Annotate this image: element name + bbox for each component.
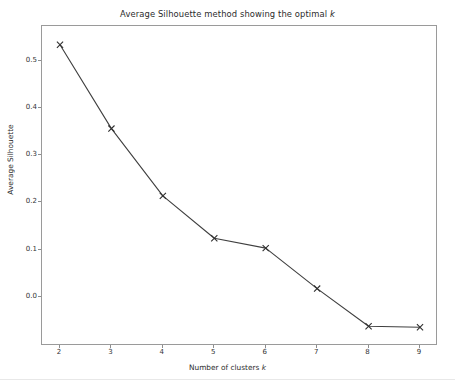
x-axis-tick-labels: 23456789 [0, 348, 455, 362]
x-axis-label: Number of clusters k [0, 363, 455, 372]
x-axis-tick-label: 6 [262, 348, 266, 356]
x-axis-tick-label: 7 [314, 348, 318, 356]
x-axis-tick-label: 9 [417, 348, 421, 356]
x-axis-tick-label: 3 [108, 348, 112, 356]
x-axis-label-text: Number of clusters [189, 363, 262, 372]
data-point-markers [57, 42, 423, 331]
plot-area [41, 25, 437, 345]
y-axis-tick-label: 0.2 [26, 197, 37, 205]
data-series-line [60, 45, 420, 327]
data-point-marker [160, 193, 166, 199]
x-axis-tick-label: 2 [57, 348, 61, 356]
x-axis-tick-label: 8 [365, 348, 369, 356]
chart-title-italic-k: k [330, 9, 335, 19]
chart-title-text: Average Silhouette method showing the op… [120, 9, 330, 19]
x-axis-tick-label: 4 [160, 348, 164, 356]
chart-title: Average Silhouette method showing the op… [0, 9, 455, 19]
y-axis-tick-label: 0.4 [26, 103, 37, 111]
x-axis-label-italic-k: k [262, 363, 266, 372]
y-axis-tick-label: 0.1 [26, 245, 37, 253]
x-axis-tick-label: 5 [211, 348, 215, 356]
y-axis-label: Average Silhouette [6, 80, 15, 240]
data-point-marker [57, 42, 63, 48]
chart-figure: Average Silhouette method showing the op… [0, 0, 455, 380]
data-point-marker [314, 285, 320, 291]
y-axis-tick-label: 0.5 [26, 56, 37, 64]
y-axis-tick-label: 0.0 [26, 292, 37, 300]
y-axis-tick-label: 0.3 [26, 150, 37, 158]
silhouette-line-plot [42, 26, 438, 346]
data-point-marker [108, 125, 114, 131]
